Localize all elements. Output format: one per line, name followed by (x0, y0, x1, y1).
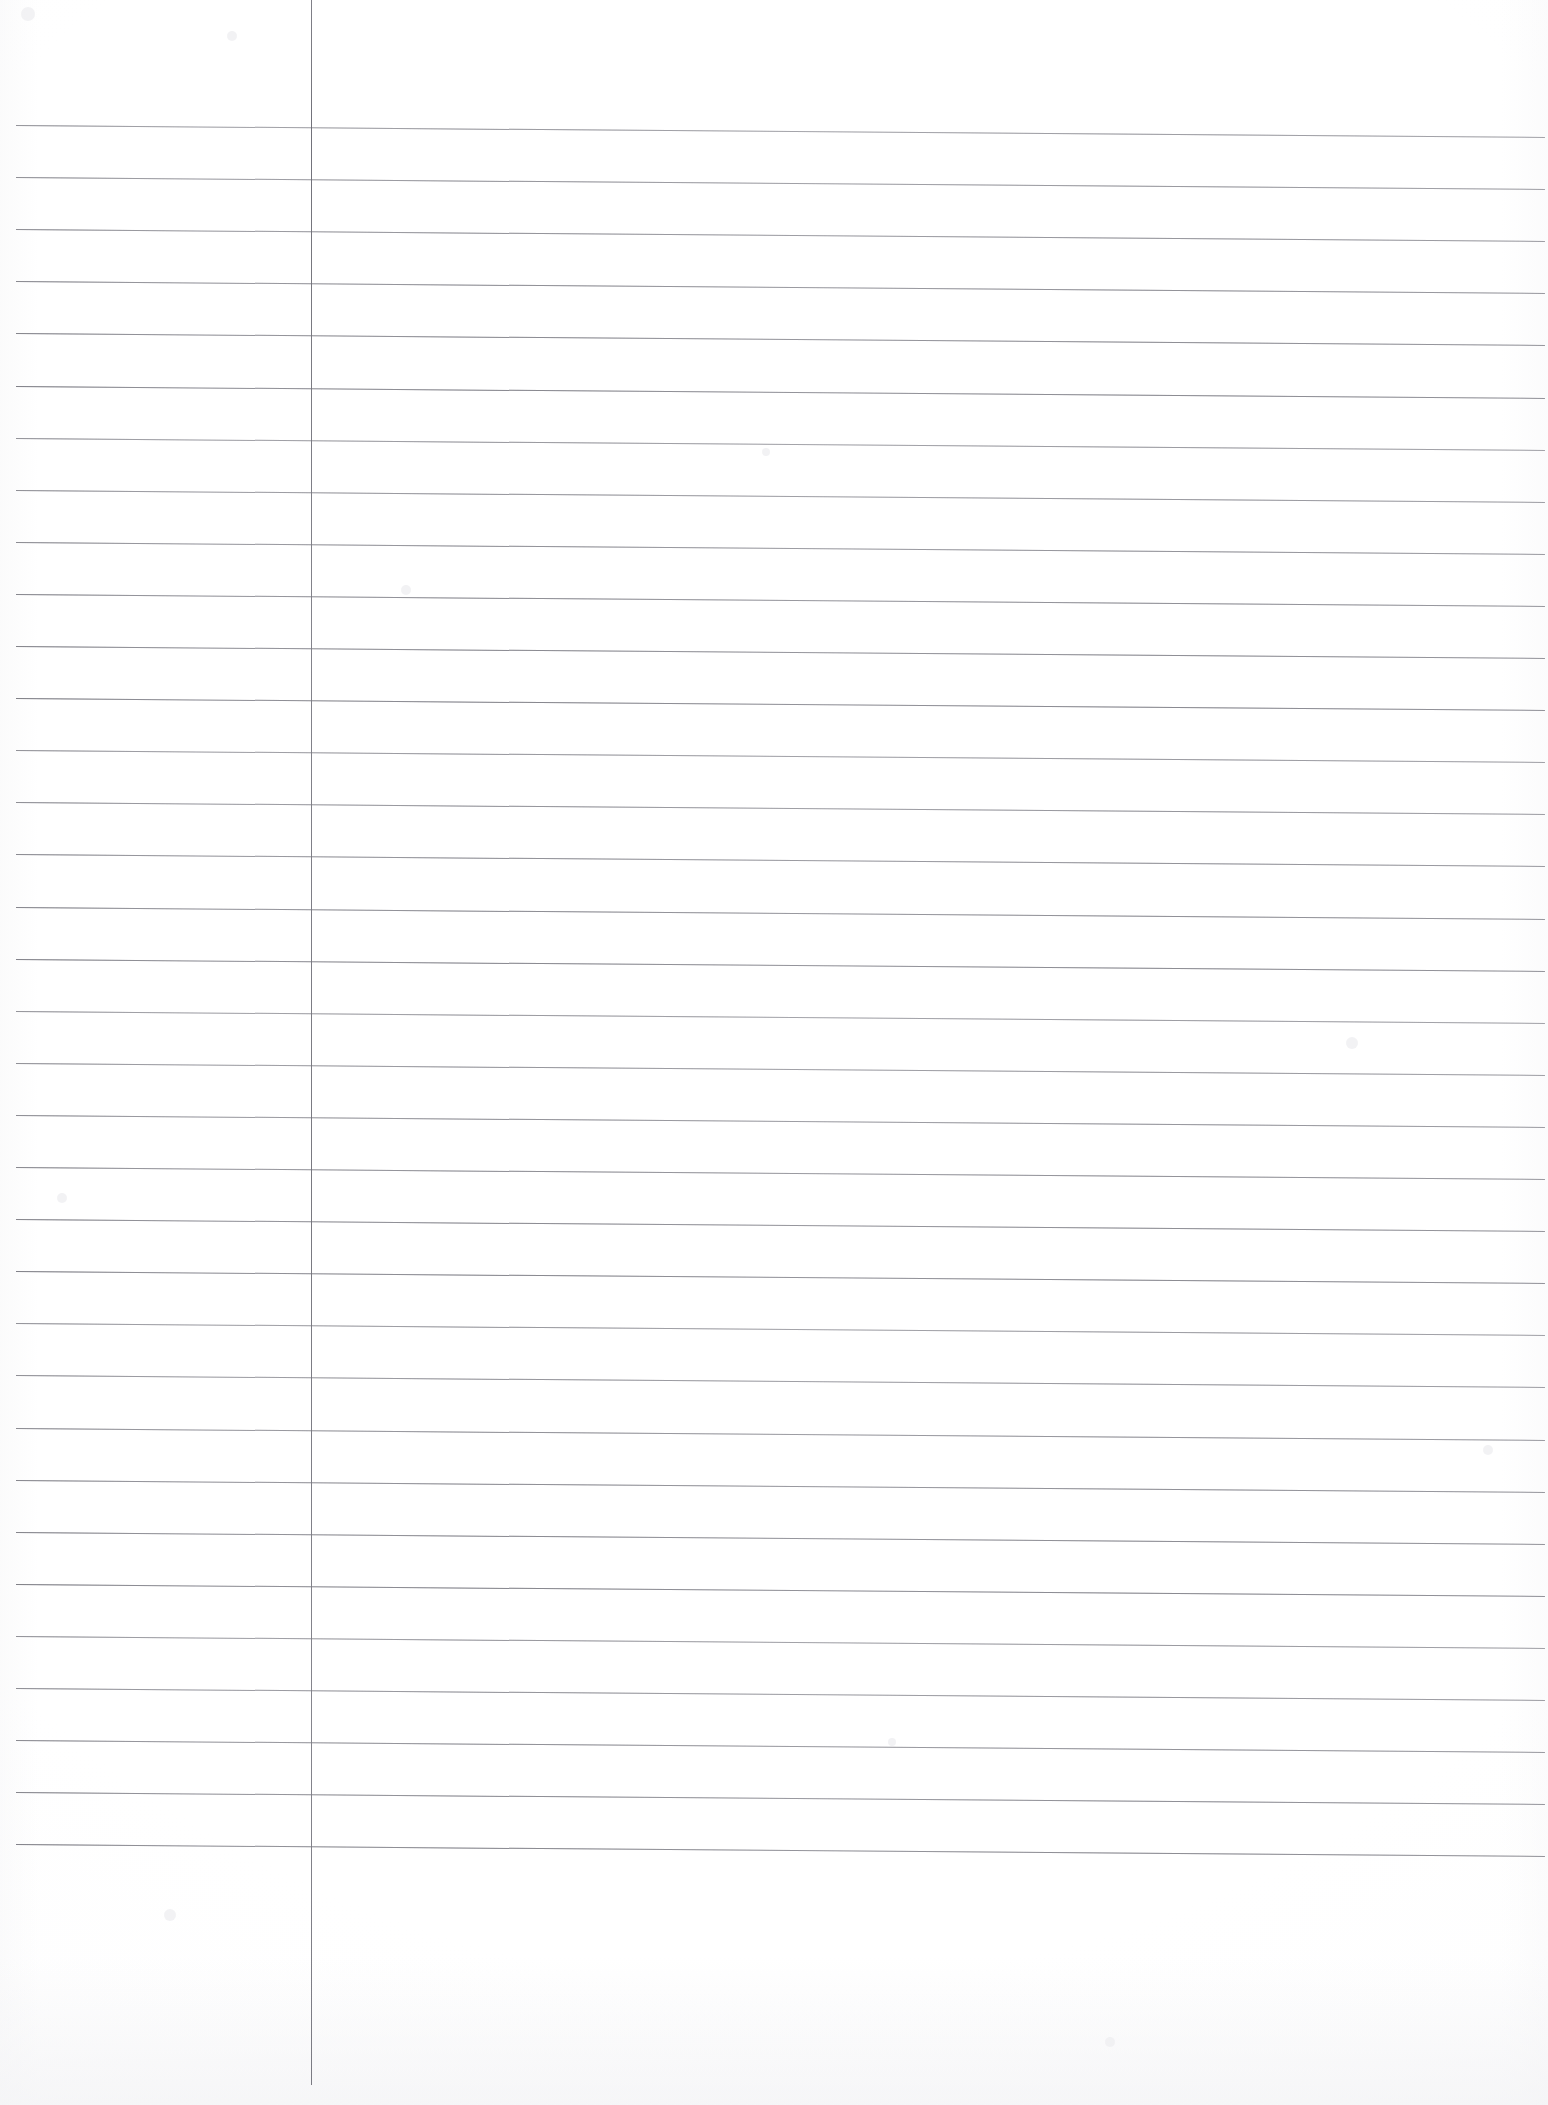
paper-speck (57, 1193, 67, 1203)
paper-speck (164, 1909, 176, 1921)
writing-area[interactable] (311, 0, 1548, 2105)
notebook-page (0, 0, 1548, 2105)
paper-speck (21, 7, 35, 21)
paper-speck (227, 31, 237, 41)
